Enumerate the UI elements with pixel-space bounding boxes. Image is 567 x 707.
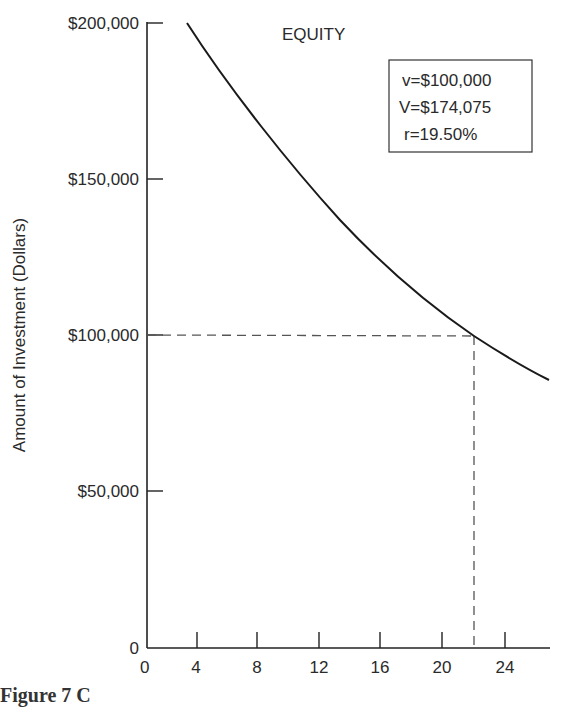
y-axis-label: Amount of Investment (Dollars): [10, 218, 29, 452]
reference-line-horizontal: [147, 335, 474, 336]
x-tick-label: 12: [310, 658, 329, 677]
figure-caption: Figure 7 C: [0, 684, 91, 707]
y-tick-label: $150,000: [68, 170, 139, 189]
y-tick-label: $200,000: [68, 14, 139, 33]
x-tick-labels: 0 4 8 12 16 20 24: [140, 658, 514, 677]
y-tick-label: 0: [130, 639, 139, 658]
chart-title: EQUITY: [282, 25, 345, 44]
annotation-line: v=$100,000: [402, 71, 491, 90]
x-tick-label: 16: [371, 658, 390, 677]
y-tick-labels: $200,000 $150,000 $100,000 $50,000 0: [68, 14, 139, 658]
y-ticks: [147, 23, 163, 491]
annotation-box: v=$100,000 V=$174,075 r=19.50%: [389, 60, 532, 152]
x-tick-label: 24: [496, 658, 515, 677]
x-tick-label: 8: [252, 658, 261, 677]
x-tick-label: 20: [433, 658, 452, 677]
x-tick-label: 0: [140, 658, 149, 677]
y-tick-label: $100,000: [68, 326, 139, 345]
annotation-line: V=$174,075: [399, 98, 491, 117]
x-tick-label: 4: [191, 658, 200, 677]
y-tick-label: $50,000: [78, 482, 139, 501]
x-ticks: [197, 632, 505, 648]
annotation-line: r=19.50%: [404, 125, 477, 144]
